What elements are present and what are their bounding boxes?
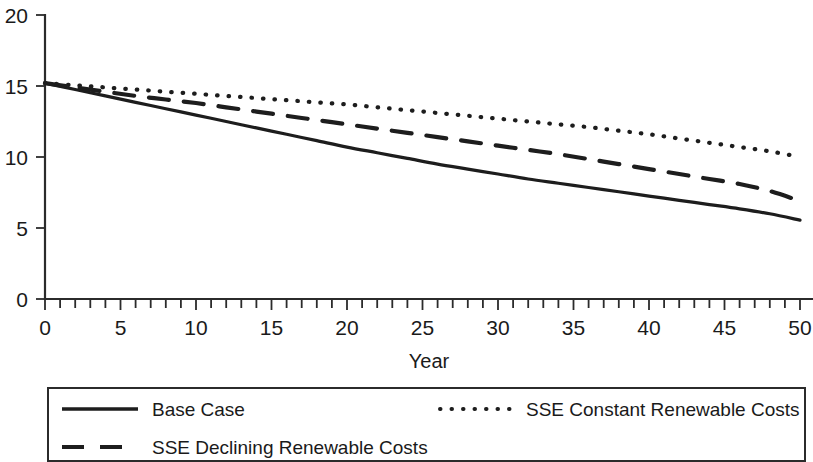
x-tick-label: 25 [411,316,434,339]
x-tick-label: 35 [562,316,585,339]
chart-background [0,0,813,462]
x-axis-title: Year [409,350,450,372]
x-tick-label: 30 [486,316,509,339]
y-tick-label: 20 [5,4,28,27]
x-tick-label: 20 [335,316,358,339]
y-tick-label: 10 [5,146,28,169]
legend-label-sse-constant: SSE Constant Renewable Costs [526,399,800,420]
legend-label-sse-declining: SSE Declining Renewable Costs [152,437,428,458]
x-tick-label: 0 [39,316,51,339]
y-tick-label: 15 [5,75,28,98]
chart-figure: 05101520 05101520253035404550 Year Base … [0,0,813,462]
x-tick-label: 10 [184,316,207,339]
x-tick-label: 40 [637,316,660,339]
x-tick-label: 15 [260,316,283,339]
y-tick-label: 5 [16,217,28,240]
y-tick-label: 0 [16,288,28,311]
chart-svg: 05101520 05101520253035404550 Year Base … [0,0,813,462]
x-tick-label: 45 [713,316,736,339]
x-tick-label: 50 [788,316,811,339]
legend-label-base-case: Base Case [152,399,245,420]
x-tick-label: 5 [115,316,127,339]
